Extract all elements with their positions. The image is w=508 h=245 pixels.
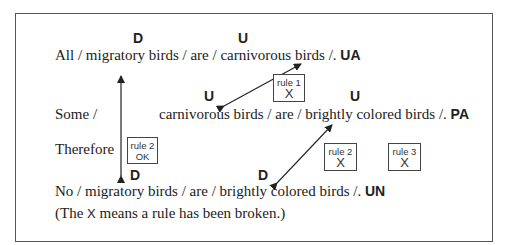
distribution-label-d: D (133, 31, 143, 45)
distribution-label-u: U (350, 89, 360, 103)
rule-box-status: X (389, 157, 420, 168)
distribution-label-d: D (130, 168, 140, 182)
note-x-symbol: X (87, 206, 96, 221)
conclusion-text: No / migratory birds / are / brightly co… (55, 183, 361, 199)
rule-box-rule2-x: rule 2 X (324, 143, 357, 171)
rule-box-rule2-ok: rule 2 OK (127, 137, 158, 164)
rule-box-label: rule 2 (128, 140, 157, 151)
distribution-label-d: D (258, 168, 268, 182)
major-premise: All / migratory birds / are / carnivorou… (55, 48, 361, 63)
form-label-ua: UA (340, 47, 360, 63)
note-after: means a rule has been broken.) (96, 205, 286, 221)
rule-box-status: X (325, 157, 356, 168)
form-label-un: UN (365, 183, 385, 199)
minor-premise: carnivorous birds / are / brightly color… (159, 107, 469, 122)
distribution-label-u: U (204, 89, 214, 103)
distribution-label-u: U (238, 31, 248, 45)
note: (The X means a rule has been broken.) (55, 206, 285, 221)
rule-box-rule3-x: rule 3 X (388, 143, 421, 171)
minor-premise-prefix: Some / (55, 107, 97, 122)
major-premise-text: All / migratory birds / are / carnivorou… (55, 47, 337, 63)
rule-box-status: OK (128, 151, 157, 162)
note-before: (The (55, 205, 87, 221)
conclusion: No / migratory birds / are / brightly co… (55, 184, 385, 199)
rule-box-status: X (274, 88, 304, 99)
therefore-label: Therefore (55, 142, 114, 157)
rule-box-rule1: rule 1 X (273, 74, 305, 102)
minor-premise-text: carnivorous birds / are / brightly color… (159, 106, 447, 122)
form-label-pa: PA (451, 106, 469, 122)
